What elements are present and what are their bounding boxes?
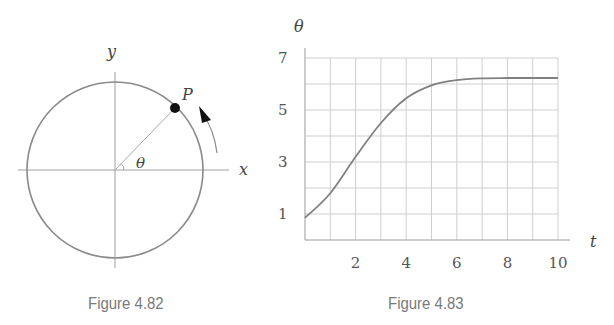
x-tick-label: 8 [503,254,513,272]
y-tick-label: 7 [278,49,288,67]
figure-page: y x P θ 1357 246810 θ t Figure 4.82 Figu… [0,0,614,325]
x-tick-label: 2 [351,254,361,272]
x-tick-label: 6 [452,254,462,272]
y-tick-label: 5 [278,101,288,119]
y-tick-label: 1 [278,205,288,223]
y-tick-label: 3 [278,153,288,171]
x-tick-label: 10 [548,254,567,272]
x-tick-label: 4 [401,254,411,272]
theta-vs-t-chart: 1357 246810 θ t [0,0,614,325]
chart-x-label: t [590,232,597,251]
figure-caption-4-82: Figure 4.82 [88,294,164,314]
chart-y-label: θ [294,17,304,36]
x-tick-labels: 246810 [351,254,568,272]
y-tick-labels: 1357 [278,49,288,223]
figure-caption-4-83: Figure 4.83 [388,294,464,314]
